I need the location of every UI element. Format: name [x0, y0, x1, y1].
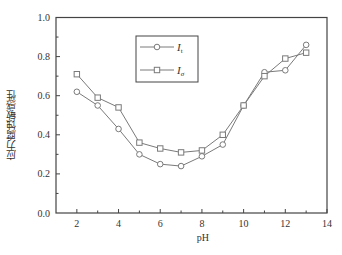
circle-marker-icon — [283, 67, 289, 73]
legend-box — [136, 36, 198, 82]
x-tick-label: 14 — [322, 218, 332, 229]
circle-marker-icon — [154, 44, 160, 50]
x-tick-label: 4 — [116, 218, 121, 229]
square-marker-icon — [283, 56, 288, 61]
y-tick-label: 1.0 — [38, 12, 51, 23]
x-tick-label: 10 — [239, 218, 249, 229]
square-marker-icon — [74, 71, 79, 76]
square-marker-icon — [154, 67, 159, 72]
square-marker-icon — [262, 73, 267, 78]
x-tick-label: 12 — [280, 218, 290, 229]
circle-marker-icon — [116, 126, 122, 132]
circle-marker-icon — [157, 161, 163, 167]
x-axis-label: pH — [197, 232, 209, 243]
square-marker-icon — [241, 103, 246, 108]
chart: 2468101214pH0.00.20.40.60.81.0ItIσ 应力腐蚀敏… — [0, 0, 342, 255]
square-marker-icon — [178, 150, 183, 155]
circle-marker-icon — [220, 142, 226, 148]
x-axis: 2468101214pH — [74, 209, 332, 243]
circle-marker-icon — [199, 154, 205, 160]
y-tick-label: 0.8 — [38, 51, 51, 62]
y-tick-label: 0.2 — [38, 168, 51, 179]
x-tick-label: 8 — [199, 218, 204, 229]
y-axis-label: 应力腐蚀敏感性 — [4, 70, 20, 180]
square-marker-icon — [220, 132, 225, 137]
plot-area: 2468101214pH0.00.20.40.60.81.0ItIσ — [0, 0, 342, 255]
circle-marker-icon — [74, 89, 80, 95]
square-marker-icon — [137, 140, 142, 145]
y-axis: 0.00.20.40.60.81.0 — [38, 12, 61, 219]
square-marker-icon — [199, 148, 204, 153]
square-marker-icon — [303, 50, 308, 55]
circle-marker-icon — [95, 103, 101, 109]
square-marker-icon — [158, 146, 163, 151]
circle-marker-icon — [137, 152, 143, 158]
circle-marker-icon — [178, 163, 184, 169]
y-tick-label: 0.0 — [38, 208, 51, 219]
square-marker-icon — [116, 105, 121, 110]
circle-marker-icon — [303, 42, 309, 48]
legend: ItIσ — [136, 36, 198, 82]
y-tick-label: 0.4 — [38, 129, 51, 140]
square-marker-icon — [95, 95, 100, 100]
x-tick-label: 6 — [158, 218, 163, 229]
y-tick-label: 0.6 — [38, 90, 51, 101]
x-tick-label: 2 — [74, 218, 79, 229]
